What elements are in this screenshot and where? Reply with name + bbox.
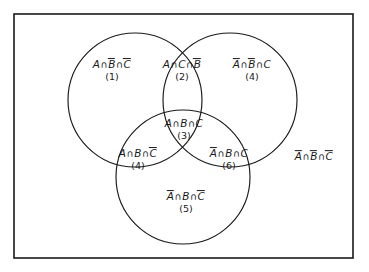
universe-rectangle — [14, 14, 353, 258]
venn-diagram-figure: A∩B∩C(1)A∩C∩B(2)A∩B∩C(4)A∩B∩C(3)A∩B∩C(4)… — [0, 0, 369, 272]
set-b-circle — [116, 110, 250, 244]
venn-diagram-canvas — [0, 0, 369, 272]
